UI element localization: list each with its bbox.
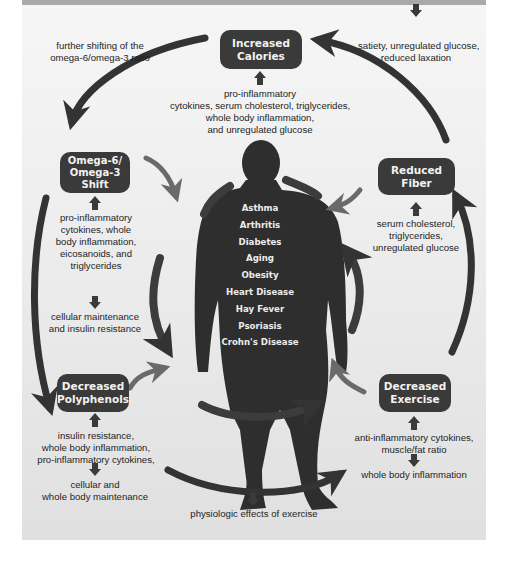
note-exercise-effects: anti-inflammatory cytokines, muscle/fat … (352, 432, 476, 456)
note-line: cytokines, serum cholesterol, triglyceri… (170, 100, 350, 112)
note-line: insulin resistance, (36, 430, 156, 442)
note-line: further shifting of the (28, 40, 172, 52)
disease-item: Psoriasis (206, 318, 314, 335)
note-exercise-inflammation: whole body inflammation (356, 469, 472, 481)
note-line: pro-inflammatory cytokines, (36, 454, 156, 466)
node-label-line: Calories (237, 50, 285, 63)
note-satiety: satiety, unregulated glucose, reduced la… (358, 40, 474, 64)
disease-item: Diabetes (206, 234, 314, 251)
node-label-line: Decreased (62, 380, 124, 393)
note-fiber-effects: serum cholesterol, triglycerides, unregu… (366, 218, 466, 254)
note-line: cytokines, whole (52, 224, 140, 236)
note-line: serum cholesterol, (366, 218, 466, 230)
arrow-up-omega (89, 196, 101, 210)
disease-item: Aging (206, 250, 314, 267)
arrow-right-inner-up (346, 250, 360, 330)
note-line: body inflammation, (52, 236, 140, 248)
node-increased-calories: Increased Calories (220, 30, 302, 69)
note-line: pro-inflammatory (52, 212, 140, 224)
arrow-exercise-inner (334, 364, 364, 392)
arrow-up-polyphenols (89, 413, 101, 427)
node-label-line: Shift (82, 179, 109, 191)
arrow-omega-to-polyphenols (34, 198, 50, 408)
disease-item: Asthma (206, 200, 314, 217)
node-label-line: Decreased (384, 380, 446, 393)
note-omega-effects: pro-inflammatory cytokines, whole body i… (52, 212, 140, 272)
arrow-up-fiber (410, 202, 422, 216)
arrow-up-exercise (408, 416, 420, 430)
note-line: whole body maintenance (40, 491, 150, 503)
note-line: triglycerides (52, 260, 140, 272)
note-polyphenol-maintenance: cellular and whole body maintenance (40, 479, 150, 503)
node-label-line: Exercise (390, 393, 439, 406)
disease-item: Crohn's Disease (206, 334, 314, 351)
note-line: and unregulated glucose (170, 124, 350, 136)
note-calories-effects: pro-inflammatory cytokines, serum choles… (170, 88, 350, 136)
note-line: whole body inflammation (356, 469, 472, 481)
node-decreased-polyphenols: Decreased Polyphenols (57, 374, 129, 412)
note-line: whole body inflammation, (36, 442, 156, 454)
arrow-fiber-inner (332, 190, 360, 208)
node-label-line: Reduced (391, 164, 442, 177)
note-line: reduced laxation (358, 52, 474, 64)
node-reduced-fiber: Reduced Fiber (378, 158, 455, 195)
node-label-line: Omega-3 (70, 167, 121, 179)
node-label-line: Fiber (401, 177, 432, 190)
note-line: cellular and (40, 479, 150, 491)
disease-item: Hay Fever (206, 301, 314, 318)
arrow-down-cellular (89, 296, 101, 309)
disease-item: Heart Disease (206, 284, 314, 301)
disease-list: Asthma Arthritis Diabetes Aging Obesity … (206, 200, 314, 351)
note-cellular-insulin: cellular maintenance and insulin resista… (46, 311, 144, 335)
node-label-line: Omega-6/ (68, 155, 122, 167)
note-line: unregulated glucose (366, 242, 466, 254)
arrow-up-calories (254, 71, 266, 85)
arrow-down-satiety (410, 4, 422, 17)
node-label-line: Increased (232, 37, 290, 50)
note-line: eicosanoids, and (52, 248, 140, 260)
note-line: cellular maintenance (46, 311, 144, 323)
node-label-line: Polyphenols (57, 393, 129, 406)
silhouette-head (242, 140, 280, 186)
note-line: whole body inflammation, (170, 112, 350, 124)
note-line: triglycerides, (366, 230, 466, 242)
note-line: satiety, unregulated glucose, (358, 40, 474, 52)
arrow-left-inner-down (153, 258, 168, 350)
note-physiologic: physiologic effects of exercise (190, 508, 318, 520)
node-decreased-exercise: Decreased Exercise (379, 374, 451, 412)
disease-item: Arthritis (206, 217, 314, 234)
note-line: physiologic effects of exercise (190, 508, 318, 520)
note-omega-ratio: further shifting of the omega-6/omega-3 … (28, 40, 172, 64)
arrow-polyphenols-inner (130, 368, 164, 388)
note-line: and insulin resistance (46, 323, 144, 335)
note-line: omega-6/omega-3 ratio (28, 52, 172, 64)
node-omega-shift: Omega-6/ Omega-3 Shift (60, 152, 130, 193)
note-line: anti-inflammatory cytokines, (352, 432, 476, 444)
note-polyphenol-effects: insulin resistance, whole body inflammat… (36, 430, 156, 466)
disease-item: Obesity (206, 267, 314, 284)
note-line: muscle/fat ratio (352, 444, 476, 456)
note-line: pro-inflammatory (170, 88, 350, 100)
arrow-omega-inner (146, 158, 176, 196)
